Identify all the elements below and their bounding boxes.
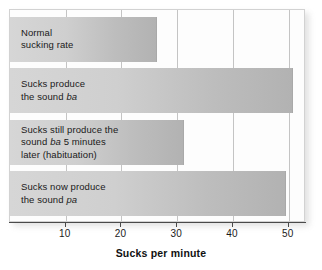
bar-row: Normalsucking rate — [10, 17, 305, 62]
x-tick-mark-30 — [176, 222, 177, 227]
bar-label-line: the sound ba — [21, 91, 85, 104]
x-tick-label-40: 40 — [226, 228, 238, 239]
bar-label-emphasis: pa — [66, 194, 77, 205]
bar-label-line: Sucks now produce — [21, 181, 106, 194]
bar-label-line: sound ba 5 minutes — [21, 136, 118, 149]
bar-chart-figure: Normalsucking rateSucks producethe sound… — [0, 0, 322, 270]
bar-label-text: sucking rate — [21, 39, 73, 50]
bar-label-line: Normal — [21, 27, 73, 40]
bar-label-line: sucking rate — [21, 39, 73, 52]
plot-area: Normalsucking rateSucks producethe sound… — [9, 9, 305, 222]
x-axis-line — [9, 222, 306, 223]
bar-label-text: sound — [21, 136, 50, 147]
x-tick-mark-10 — [65, 222, 66, 227]
bar-row: Sucks still produce thesound ba 5 minute… — [10, 120, 305, 165]
bar-label-text: Sucks now produce — [21, 181, 106, 192]
x-tick-label-10: 10 — [59, 228, 71, 239]
bar-label: Sucks producethe sound ba — [21, 68, 85, 113]
bar-row: Sucks now producethe sound pa — [10, 171, 305, 216]
bar-label-emphasis: ba — [50, 136, 61, 147]
x-tick-mark-40 — [232, 222, 233, 227]
bar-label-text: Normal — [21, 27, 52, 38]
bar-label-text: later (habituation) — [21, 149, 97, 160]
bar-label-text: the sound — [21, 91, 66, 102]
bar-label-emphasis: ba — [66, 91, 77, 102]
bar-label-line: Sucks still produce the — [21, 124, 118, 137]
x-tick-label-20: 20 — [115, 228, 127, 239]
bar-row: Sucks producethe sound ba — [10, 68, 305, 113]
bars-layer: Normalsucking rateSucks producethe sound… — [10, 10, 304, 221]
bar-label: Normalsucking rate — [21, 17, 73, 62]
bar-label-line: later (habituation) — [21, 149, 118, 162]
x-axis-title: Sucks per minute — [0, 247, 322, 259]
x-tick-label-50: 50 — [282, 228, 294, 239]
bar-label-text: Sucks still produce the — [21, 124, 118, 135]
bar-label-line: Sucks produce — [21, 78, 85, 91]
x-tick-mark-50 — [288, 222, 289, 227]
bar-label: Sucks now producethe sound pa — [21, 171, 106, 216]
bar-label-text: the sound — [21, 194, 66, 205]
bar-label-line: the sound pa — [21, 194, 106, 207]
bar-label: Sucks still produce thesound ba 5 minute… — [21, 120, 118, 165]
x-tick-label-30: 30 — [170, 228, 182, 239]
x-tick-mark-20 — [120, 222, 121, 227]
bar-label-text: Sucks produce — [21, 78, 85, 89]
bar-label-text: 5 minutes — [61, 136, 106, 147]
